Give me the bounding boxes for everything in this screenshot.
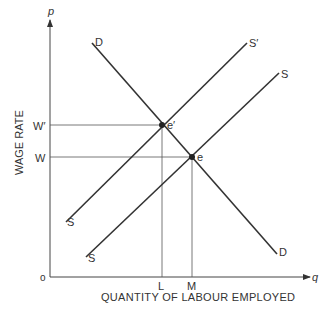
y-axis-symbol: p [47, 5, 54, 17]
equilibrium-dot-e-prime [159, 122, 165, 128]
equilibrium-label-e: e [197, 151, 203, 163]
equilibrium-dot-e [189, 154, 195, 160]
supply-shifted-label-top: S′ [249, 37, 258, 49]
supply-original-label-bottom: S [88, 252, 95, 264]
wage-label-w-prime: W′ [33, 120, 45, 132]
x-axis-title: QUANTITY OF LABOUR EMPLOYED [101, 291, 295, 303]
x-axis-symbol: q [312, 271, 319, 283]
origin-label: o [40, 272, 46, 283]
demand-curve [92, 43, 277, 254]
demand-label-top: D [95, 36, 103, 48]
quantity-label-l: L [158, 280, 164, 292]
wage-label-w: W [35, 152, 46, 164]
labour-market-diagram: p q o WAGE RATE QUANTITY OF LABOUR EMPLO… [0, 0, 327, 316]
supply-original-curve [86, 73, 279, 257]
supply-shifted-label-bottom: S [67, 216, 74, 228]
demand-label-bottom: D [279, 246, 287, 258]
supply-original-label-top: S [281, 68, 288, 80]
quantity-label-m: M [187, 280, 196, 292]
supply-shifted-curve [66, 43, 247, 222]
y-axis-title: WAGE RATE [13, 110, 25, 175]
equilibrium-label-e-prime: e′ [167, 119, 175, 131]
